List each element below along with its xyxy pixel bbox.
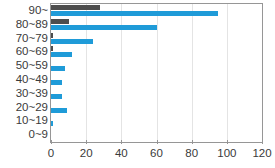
x-axis-tick-label: 40	[115, 146, 128, 160]
x-axis-tick-label: 100	[217, 146, 236, 160]
x-axis-tick-label: 20	[80, 146, 93, 160]
x-axis-tick-label: 0	[48, 146, 54, 160]
bar-group	[51, 45, 262, 59]
bar	[51, 52, 72, 57]
bar-group	[51, 32, 262, 46]
bar	[51, 19, 69, 24]
y-axis-tick-label: 40~49	[0, 73, 48, 85]
bar	[51, 94, 62, 99]
x-axis-tick-label: 60	[150, 146, 163, 160]
bar-group	[51, 4, 262, 18]
y-axis-tick-label: 60~69	[0, 45, 48, 57]
bar	[51, 39, 93, 44]
bar	[51, 25, 157, 30]
bar-group	[51, 18, 262, 32]
x-axis-tick-label: 80	[185, 146, 198, 160]
bar	[51, 108, 67, 113]
x-axis-tickmark	[227, 140, 228, 144]
bar	[51, 121, 53, 126]
x-axis-tick-labels: 020406080100120	[50, 146, 263, 164]
y-axis-tick-label: 30~39	[0, 87, 48, 99]
bar	[51, 46, 53, 51]
x-axis-tick-label: 120	[252, 146, 271, 160]
bar	[51, 66, 65, 71]
plot-area	[50, 3, 263, 143]
bar	[51, 33, 53, 38]
x-axis-tickmarks	[50, 139, 263, 144]
bar-group	[51, 114, 262, 128]
bar-group	[51, 59, 262, 73]
x-axis-tickmark	[192, 140, 193, 144]
y-axis-tick-label: 90~	[0, 4, 48, 16]
bar-group	[51, 87, 262, 101]
x-axis-tickmark	[86, 140, 87, 144]
x-axis-tickmark	[51, 140, 52, 144]
bar	[51, 11, 218, 16]
bar-group	[51, 73, 262, 87]
y-axis-tick-labels: 90~ 80~89 70~79 60~69 50~59 40~49 30~39 …	[0, 3, 48, 143]
y-axis-tick-label: 0~9	[0, 128, 48, 140]
y-axis-tick-label: 80~89	[0, 18, 48, 30]
y-axis-tick-label: 70~79	[0, 32, 48, 44]
y-axis-tick-label: 20~29	[0, 101, 48, 113]
x-axis-tickmark	[262, 140, 263, 144]
bar-group	[51, 101, 262, 115]
y-axis-tick-label: 50~59	[0, 59, 48, 71]
x-axis-tickmark	[121, 140, 122, 144]
x-axis-tickmark	[157, 140, 158, 144]
bar	[51, 80, 62, 85]
bar-chart-figure: 90~ 80~89 70~79 60~69 50~59 40~49 30~39 …	[0, 0, 275, 168]
gridline	[262, 4, 263, 142]
y-axis-tick-label: 10~19	[0, 114, 48, 126]
bar	[51, 5, 100, 10]
